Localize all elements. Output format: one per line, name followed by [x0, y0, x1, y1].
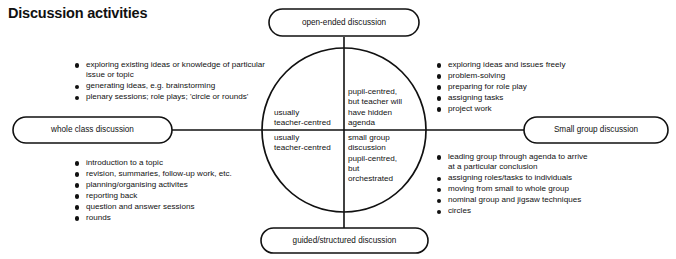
- bullet-item: leading group through agenda to arriveat…: [437, 152, 662, 173]
- bullet-item: rounds: [75, 213, 280, 223]
- quadrant-top-right-line-1: pupil-centred,: [348, 87, 402, 97]
- bullet-item: moving from small to whole group: [437, 184, 662, 194]
- bullet-item: problem-solving: [437, 71, 662, 81]
- quadrant-bottom-right-line-3: pupil-centred,: [348, 154, 397, 164]
- bullet-item: revision, summaries, follow-up work, etc…: [75, 169, 280, 179]
- quadrant-bottom-right-line-4: but: [348, 164, 397, 174]
- quadrant-top-right-line-4: agenda: [348, 118, 402, 128]
- bullet-item: assigning tasks: [437, 93, 662, 103]
- quadrant-top-right-line-2: but teacher will: [348, 97, 402, 107]
- bullet-list-bottom-left: introduction to a topicrevision, summari…: [75, 158, 280, 224]
- bullet-list-top-left: exploring existing ideas or knowledge of…: [75, 60, 280, 103]
- bullet-item: planning/organising activites: [75, 180, 280, 190]
- node-label-small-group: Small group discussion: [524, 126, 668, 134]
- quadrant-top-right-line-3: have hidden: [348, 108, 402, 118]
- bullet-list-bottom-right: leading group through agenda to arriveat…: [437, 152, 662, 217]
- quadrant-top-left-line-2: teacher-centred: [274, 118, 331, 128]
- node-label-guided-structured: guided/structured discussion: [261, 237, 428, 245]
- quadrant-bottom-right-line-2: discussion: [348, 143, 397, 153]
- bullet-item: exploring ideas and issues freely: [437, 60, 662, 70]
- bullet-list-top-left-items: exploring existing ideas or knowledge of…: [75, 60, 280, 103]
- bullet-item: circles: [437, 206, 662, 216]
- quadrant-top-left-text: usually teacher-centred: [274, 108, 331, 129]
- bullet-list-top-right-items: exploring ideas and issues freelyproblem…: [437, 60, 662, 114]
- quadrant-top-left-line-1: usually: [274, 108, 331, 118]
- bullet-item: introduction to a topic: [75, 158, 280, 168]
- bullet-item: reporting back: [75, 191, 280, 201]
- quadrant-bottom-left-line-1: usually: [274, 133, 331, 143]
- bullet-list-bottom-left-items: introduction to a topicrevision, summari…: [75, 158, 280, 223]
- bullet-item: assigning roles/tasks to individuals: [437, 173, 662, 183]
- bullet-list-bottom-right-items: leading group through agenda to arriveat…: [437, 152, 662, 217]
- quadrant-bottom-right-line-1: small group: [348, 133, 397, 143]
- bullet-item: nominal group and jigsaw techniques: [437, 195, 662, 205]
- bullet-item: generating ideas, e.g. brainstorming: [75, 81, 280, 91]
- node-label-open-ended: open-ended discussion: [269, 19, 419, 27]
- quadrant-bottom-left-line-2: teacher-centred: [274, 143, 331, 153]
- quadrant-bottom-left-text: usually teacher-centred: [274, 133, 331, 154]
- quadrant-top-right-text: pupil-centred, but teacher will have hid…: [348, 87, 402, 128]
- bullet-item: plenary sessions; role plays; 'circle or…: [75, 92, 280, 102]
- quadrant-bottom-right-line-5: orchestrated: [348, 174, 397, 184]
- bullet-item: project work: [437, 104, 662, 114]
- quadrant-bottom-right-text: small group discussion pupil-centred, bu…: [348, 133, 397, 184]
- diagram-page: Discussion activities open-ended discuss…: [0, 0, 676, 259]
- bullet-list-top-right: exploring ideas and issues freelyproblem…: [437, 60, 662, 115]
- bullet-item: question and answer sessions: [75, 202, 280, 212]
- bullet-item: preparing for role play: [437, 82, 662, 92]
- bullet-item: exploring existing ideas or knowledge of…: [75, 60, 280, 81]
- node-label-whole-class: whole class discussion: [13, 126, 172, 134]
